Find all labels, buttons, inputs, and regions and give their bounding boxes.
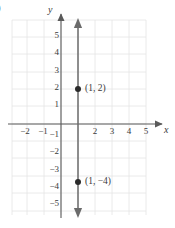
y-tick-neg5: −5 <box>44 198 59 208</box>
point-label-lower: (1, −4) <box>85 176 111 186</box>
y-tick-5: 5 <box>50 30 59 40</box>
y-axis-label: y <box>48 4 52 15</box>
x-axis-label: x <box>164 124 168 135</box>
y-tick-2: 2 <box>50 82 59 92</box>
labels-layer: y x 5 4 3 2 1 −1 −2 −3 −4 −5 −2 −1 2 3 4… <box>0 0 175 228</box>
x-tick-neg1: −1 <box>36 126 50 136</box>
x-tick-4: 4 <box>124 126 134 136</box>
y-tick-1: 1 <box>50 99 59 109</box>
y-tick-neg3: −3 <box>44 164 59 174</box>
y-tick-neg4: −4 <box>44 181 59 191</box>
y-tick-neg2: −2 <box>44 146 59 156</box>
x-tick-3: 3 <box>107 126 117 136</box>
point-label-upper: (1, 2) <box>85 83 106 93</box>
x-tick-2: 2 <box>90 126 100 136</box>
y-tick-4: 4 <box>50 47 59 57</box>
x-tick-neg2: −2 <box>18 126 32 136</box>
graph-figure: ) <box>0 0 175 228</box>
y-tick-3: 3 <box>50 65 59 75</box>
x-tick-5: 5 <box>141 126 151 136</box>
